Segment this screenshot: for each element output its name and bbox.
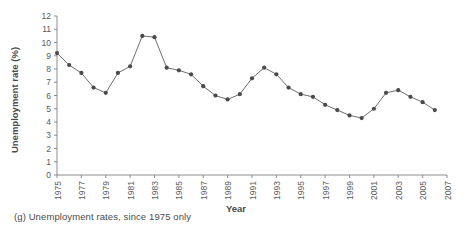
data-point	[299, 92, 303, 96]
x-tick-label: 1975	[53, 181, 63, 200]
x-axis-tick-labels: 1975197719791981198319851987198919911993…	[53, 181, 453, 200]
data-point	[311, 95, 315, 99]
y-axis-title: Unemployment rate (%)	[9, 47, 20, 153]
y-tick-label: 5	[46, 104, 51, 114]
data-point	[238, 92, 242, 96]
x-tick-label: 2003	[394, 181, 404, 200]
y-tick-label: 0	[46, 170, 51, 180]
data-point	[421, 100, 425, 104]
x-tick-label: 1987	[199, 181, 209, 200]
y-tick-label: 10	[42, 38, 52, 48]
x-tick-label: 1977	[77, 181, 87, 200]
figure-caption: (g) Unemployment rates, since 1975 only	[14, 211, 191, 222]
data-point	[116, 71, 120, 75]
data-point	[384, 91, 388, 95]
x-tick-label: 1993	[272, 181, 282, 200]
data-point	[104, 91, 108, 95]
y-axis-tick-labels: 0123456789101112	[42, 11, 52, 180]
y-tick-label: 9	[46, 51, 51, 61]
x-tick-label: 1979	[101, 181, 111, 200]
y-tick-label: 6	[46, 91, 51, 101]
y-tick-label: 4	[46, 117, 51, 127]
series-markers	[55, 34, 437, 120]
x-tick-label: 1981	[126, 181, 136, 200]
x-axis-title: Year	[226, 203, 246, 214]
data-point	[262, 66, 266, 70]
data-point	[128, 64, 132, 68]
x-tick-label: 1995	[296, 181, 306, 200]
y-tick-label: 8	[46, 64, 51, 74]
data-point	[55, 51, 59, 55]
data-point	[274, 72, 278, 76]
x-tick-label: 1985	[174, 181, 184, 200]
data-point	[323, 103, 327, 107]
data-point	[360, 116, 364, 120]
data-point	[286, 85, 290, 89]
data-point	[250, 76, 254, 80]
x-tick-label: 1983	[150, 181, 160, 200]
x-axis: 1975197719791981198319851987198919911993…	[53, 175, 453, 214]
data-point	[91, 85, 95, 89]
x-tick-label: 1989	[223, 181, 233, 200]
data-point	[408, 95, 412, 99]
data-point	[335, 108, 339, 112]
unemployment-rate-series	[55, 34, 437, 120]
series-line	[57, 36, 435, 118]
y-tick-label: 1	[46, 157, 51, 167]
data-point	[152, 35, 156, 39]
x-tick-label: 2005	[418, 181, 428, 200]
data-point	[372, 107, 376, 111]
y-tick-label: 2	[46, 144, 51, 154]
data-point	[396, 88, 400, 92]
data-point	[347, 113, 351, 117]
y-tick-label: 7	[46, 77, 51, 87]
data-point	[165, 66, 169, 70]
y-tick-label: 11	[42, 24, 51, 34]
x-tick-label: 1999	[345, 181, 355, 200]
y-tick-label: 12	[42, 11, 52, 21]
unemployment-chart-figure: 0123456789101112 Unemployment rate (%) 1…	[0, 0, 468, 245]
data-point	[213, 93, 217, 97]
data-point	[140, 34, 144, 38]
data-point	[79, 71, 83, 75]
line-chart: 0123456789101112 Unemployment rate (%) 1…	[0, 0, 468, 245]
y-tick-label: 3	[46, 130, 51, 140]
data-point	[433, 108, 437, 112]
data-point	[189, 72, 193, 76]
x-tick-label: 2007	[443, 181, 453, 200]
data-point	[201, 84, 205, 88]
data-point	[177, 68, 181, 72]
x-tick-label: 1991	[248, 181, 258, 200]
x-tick-label: 2001	[369, 181, 379, 200]
data-point	[226, 97, 230, 101]
y-axis: 0123456789101112 Unemployment rate (%)	[9, 11, 57, 180]
data-point	[67, 63, 71, 67]
x-tick-label: 1997	[321, 181, 331, 200]
